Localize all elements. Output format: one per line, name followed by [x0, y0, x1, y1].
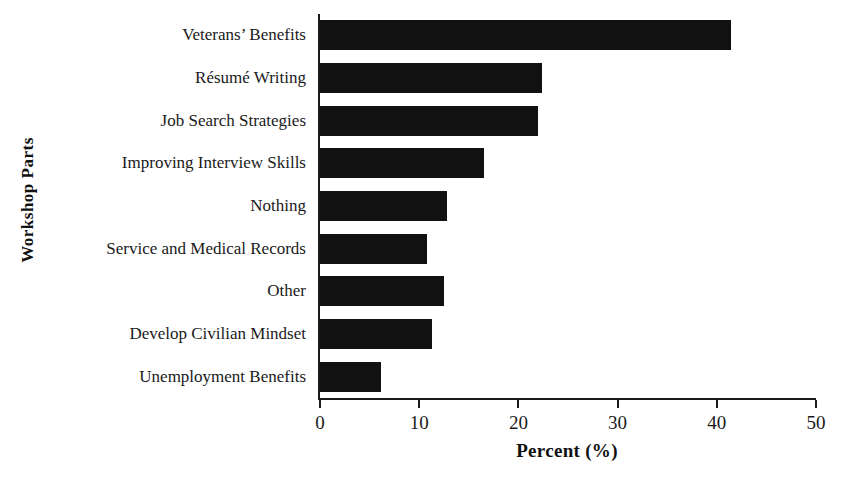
x-tick-mark: [517, 400, 519, 408]
bar: [320, 191, 447, 221]
category-label-list: Veterans’ BenefitsRésumé WritingJob Sear…: [40, 14, 312, 398]
x-tick-label: 20: [488, 412, 548, 434]
x-tick-mark: [617, 400, 619, 408]
category-label: Veterans’ Benefits: [182, 14, 306, 57]
bar: [320, 63, 542, 93]
x-tick-label: 50: [786, 412, 846, 434]
x-axis-title: Percent (%): [318, 440, 816, 462]
bar: [320, 148, 484, 178]
category-label: Other: [267, 270, 306, 313]
bar: [320, 20, 731, 50]
x-tick-mark: [716, 400, 718, 408]
bar: [320, 362, 381, 392]
bar-chart: Workshop Parts Veterans’ BenefitsRésumé …: [0, 0, 858, 487]
bar-row: [320, 99, 816, 142]
y-axis-title-text: Workshop Parts: [18, 137, 38, 263]
x-tick-label: 0: [290, 412, 350, 434]
bar-row: [320, 185, 816, 228]
x-tick-mark: [815, 400, 817, 408]
bar-row: [320, 355, 816, 398]
category-label: Improving Interview Skills: [122, 142, 306, 185]
plot-area: 01020304050: [318, 14, 816, 398]
category-label: Job Search Strategies: [161, 99, 306, 142]
category-label: Nothing: [250, 185, 306, 228]
bar-row: [320, 227, 816, 270]
category-label: Unemployment Benefits: [139, 355, 306, 398]
bar-row: [320, 270, 816, 313]
bar-row: [320, 14, 816, 57]
x-tick-mark: [418, 400, 420, 408]
x-tick-mark: [319, 400, 321, 408]
bar: [320, 106, 538, 136]
bar: [320, 276, 444, 306]
category-label: Develop Civilian Mindset: [129, 313, 306, 356]
bar: [320, 234, 427, 264]
category-label: Service and Medical Records: [106, 227, 306, 270]
bar: [320, 319, 432, 349]
x-tick-label: 40: [687, 412, 747, 434]
x-tick-label: 10: [389, 412, 449, 434]
x-tick-label: 30: [588, 412, 648, 434]
bar-row: [320, 57, 816, 100]
category-label: Résumé Writing: [195, 57, 306, 100]
bars-layer: [320, 14, 816, 398]
x-axis-line: [318, 398, 816, 400]
bar-row: [320, 313, 816, 356]
bar-row: [320, 142, 816, 185]
